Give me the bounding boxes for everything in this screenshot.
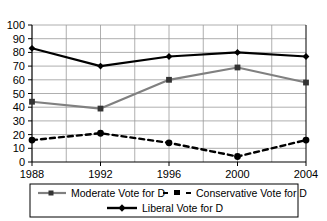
data-point-square [166, 77, 172, 83]
data-point-square [166, 139, 173, 146]
legend-marker-square-icon [174, 190, 180, 195]
y-tick-label: 100 [7, 19, 25, 31]
y-tick-label: 90 [13, 33, 25, 45]
y-tick-label: 70 [13, 60, 25, 72]
data-point-square [98, 106, 104, 112]
data-point-square [97, 130, 104, 137]
data-point-square [234, 153, 241, 160]
y-tick-label: 50 [13, 88, 25, 100]
x-tick-label: 1992 [88, 168, 112, 180]
chart-container: 100 90 80 70 60 50 40 30 20 10 0 1988 19… [0, 0, 327, 221]
legend-label-liberal: Liberal Vote for D [142, 202, 224, 214]
x-tick-label: 2000 [225, 168, 249, 180]
x-tick-label: 1988 [20, 168, 44, 180]
chart-legend: Moderate Vote for D Conservative Vote fo… [30, 184, 307, 217]
x-tick-label: 2004 [294, 168, 318, 180]
y-tick-label: 0 [19, 156, 25, 168]
data-point-square [303, 80, 309, 86]
data-point-square [29, 137, 36, 144]
y-tick-label: 30 [13, 115, 25, 127]
y-tick-label: 40 [13, 101, 25, 113]
data-point-square [235, 65, 241, 71]
line-chart: 100 90 80 70 60 50 40 30 20 10 0 1988 19… [0, 0, 327, 221]
data-point-square [29, 99, 35, 105]
legend-label-conservative: Conservative Vote for D [196, 187, 307, 199]
legend-marker-square-icon [49, 191, 54, 196]
legend-label-moderate: Moderate Vote for D [71, 187, 165, 199]
y-tick-label: 60 [13, 74, 25, 86]
y-tick-label: 10 [13, 142, 25, 154]
y-tick-label: 20 [13, 129, 25, 141]
x-tick-label: 1996 [157, 168, 181, 180]
y-tick-label: 80 [13, 46, 25, 58]
data-point-square [303, 137, 310, 144]
